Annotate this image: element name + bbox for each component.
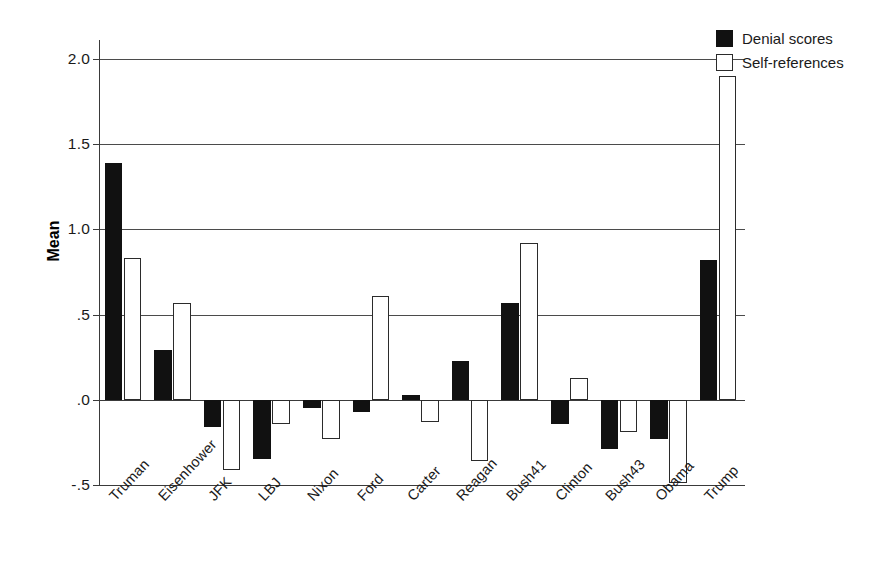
y-axis-title: Mean — [45, 181, 63, 301]
legend: Denial scoresSelf-references — [716, 26, 891, 74]
legend-item-denial-scores: Denial scores — [716, 26, 891, 50]
y-tick-label-.0: .0 — [30, 391, 90, 409]
chart-screenshot: Mean 2.01.51.0.5.0-.5 TrumanEisenhowerJF… — [0, 0, 896, 583]
y-tick-mark — [93, 229, 100, 230]
bar-clinton-self — [570, 378, 588, 400]
gridline-1.5 — [100, 144, 745, 145]
bar-truman-denial — [105, 163, 123, 400]
gridline-2.0 — [100, 59, 745, 60]
bar-carter-denial — [402, 395, 420, 400]
bar-carter-self — [421, 400, 439, 422]
bar-reagan-denial — [452, 361, 470, 400]
y-tick-label-.5: .5 — [30, 306, 90, 324]
bar-bush41-self — [520, 243, 538, 400]
legend-item-self-references: Self-references — [716, 50, 891, 74]
gridline-.5 — [100, 315, 745, 316]
y-tick-mark — [93, 485, 100, 486]
bar-clinton-denial — [551, 400, 569, 424]
bar-lbj-self — [272, 400, 290, 424]
bar-trump-self — [719, 76, 737, 400]
y-tick-label-1.5: 1.5 — [30, 135, 90, 153]
bar-eisenhower-self — [173, 303, 191, 400]
bar-nixon-self — [322, 400, 340, 439]
bar-trump-denial — [700, 260, 718, 400]
bar-jfk-self — [223, 400, 241, 470]
y-tick-mark — [93, 400, 100, 401]
legend-label: Self-references — [742, 54, 844, 71]
y-tick-mark — [93, 59, 100, 60]
gridline-1.0 — [100, 229, 745, 230]
bar-truman-self — [124, 258, 142, 399]
legend-swatch-icon — [716, 54, 733, 71]
bar-ford-denial — [353, 400, 371, 412]
bar-eisenhower-denial — [154, 350, 172, 399]
bar-obama-denial — [650, 400, 668, 439]
y-tick-mark — [93, 315, 100, 316]
legend-swatch-icon — [716, 30, 733, 47]
plot-area — [100, 59, 745, 485]
bar-reagan-self — [471, 400, 489, 461]
bar-bush41-denial — [501, 303, 519, 400]
bar-ford-self — [372, 296, 390, 400]
bar-jfk-denial — [204, 400, 222, 427]
bar-bush43-self — [620, 400, 638, 432]
y-tick-label--.5: -.5 — [30, 476, 90, 494]
bar-bush43-denial — [601, 400, 619, 449]
y-tick-mark — [93, 144, 100, 145]
legend-label: Denial scores — [742, 30, 833, 47]
y-tick-label-1.0: 1.0 — [30, 220, 90, 238]
bar-lbj-denial — [253, 400, 271, 460]
bar-nixon-denial — [303, 400, 321, 409]
y-tick-label-2.0: 2.0 — [30, 50, 90, 68]
